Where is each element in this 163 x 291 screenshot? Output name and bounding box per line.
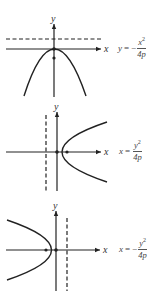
fraction: y2 4p: [133, 141, 142, 161]
vertex-point: [52, 47, 56, 51]
x-axis-label: x: [102, 244, 108, 255]
fraction: x2 4p: [137, 38, 146, 58]
numerator: y2: [133, 141, 142, 152]
x-axis-label: x: [103, 146, 109, 157]
equation-lhs: x: [119, 146, 123, 156]
denominator: 4p: [138, 250, 147, 260]
vertex-point: [55, 150, 59, 154]
y-axis-label: y: [53, 101, 59, 112]
fraction: y2 4p: [138, 239, 147, 259]
graph-2: y x: [6, 101, 109, 191]
equals-sign: =: [124, 43, 129, 53]
denominator: 4p: [133, 152, 142, 162]
focus-point: [65, 150, 68, 153]
equation-lhs: x: [119, 244, 123, 254]
y-axis-label: y: [52, 200, 58, 211]
equation-3: x = − y2 4p: [119, 239, 147, 259]
minus-sign: −: [131, 43, 136, 53]
numerator: x2: [137, 38, 146, 49]
parabola-curve: [24, 49, 86, 96]
vertex-point: [54, 248, 58, 252]
equals-sign: =: [125, 146, 130, 156]
denominator: 4p: [137, 49, 146, 59]
equals-sign: =: [125, 244, 130, 254]
y-axis-label: y: [50, 13, 56, 24]
equation-lhs: y: [118, 43, 122, 53]
equation-2: x = y2 4p: [119, 141, 142, 161]
focus-point: [44, 248, 47, 251]
x-axis-label: x: [103, 43, 109, 54]
equation-1: y = − x2 4p: [118, 38, 146, 58]
focus-point: [52, 56, 55, 59]
numerator: y2: [138, 239, 147, 250]
graph-3: y x: [6, 200, 108, 291]
graph-1: y x: [6, 13, 109, 97]
minus-sign: −: [132, 244, 137, 254]
